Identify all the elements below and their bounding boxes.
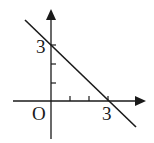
y-axis-arrow-icon — [46, 9, 56, 20]
origin-label: O — [32, 103, 46, 124]
y-axis — [46, 9, 56, 139]
x-axis-arrow-icon — [135, 96, 146, 106]
coordinate-plane: 3 O 3 — [0, 0, 154, 143]
y-intercept-label: 3 — [36, 36, 46, 57]
x-intercept-label: 3 — [102, 103, 112, 124]
